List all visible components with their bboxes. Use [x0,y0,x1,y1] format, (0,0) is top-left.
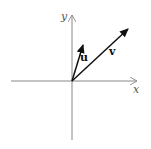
x-axis-label: x [133,83,140,96]
vector-v-label: v [108,45,116,58]
vector-u-label: u [80,51,88,64]
y-axis-label: y [60,10,68,23]
vector-diagram: y x u v [0,0,151,149]
